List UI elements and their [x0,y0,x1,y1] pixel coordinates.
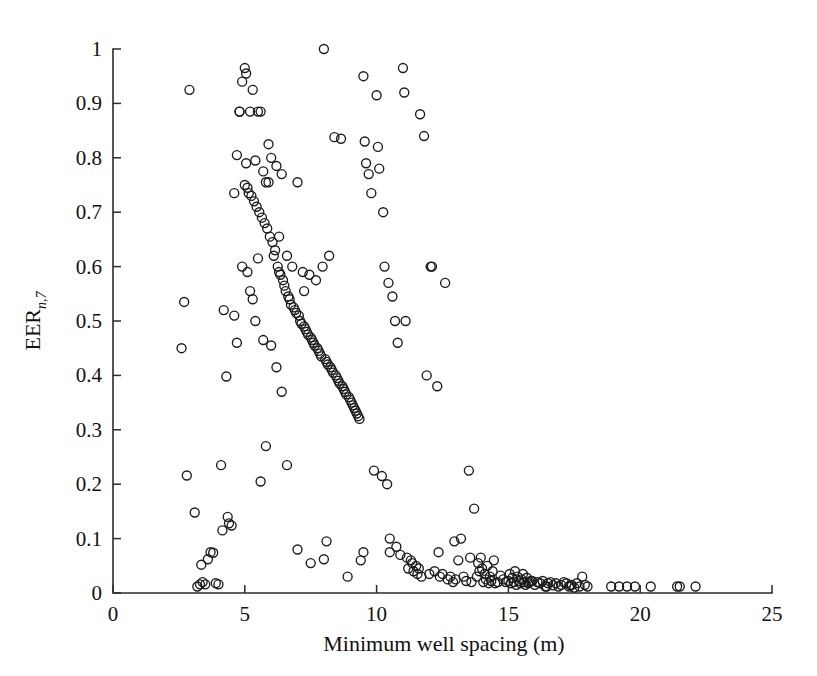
x-tick-label: 25 [762,602,783,626]
figure-container: 0510152025 00.10.20.30.40.50.60.70.80.91… [0,0,817,676]
y-tick-label: 0.6 [76,255,102,279]
y-tick-label: 0.9 [76,91,102,115]
y-tick-label: 0.5 [76,309,102,333]
y-tick-label: 0.4 [76,363,103,387]
scatter-plot: 0510152025 00.10.20.30.40.50.60.70.80.91… [0,0,817,676]
y-tick-label: 0.2 [76,472,102,496]
y-tick-label: 0.3 [76,418,102,442]
x-tick-label: 10 [366,602,387,626]
x-tick-label: 20 [630,602,651,626]
x-tick-label: 5 [240,602,251,626]
y-tick-label: 0.8 [76,146,102,170]
x-tick-label: 15 [498,602,519,626]
y-tick-label: 1 [92,37,103,61]
y-tick-label: 0.1 [76,527,102,551]
plot-background [0,0,817,676]
x-tick-label: 0 [108,602,119,626]
x-axis-title: Minimum well spacing (m) [323,631,564,656]
y-tick-label: 0.7 [76,200,102,224]
y-tick-label: 0 [92,581,103,605]
